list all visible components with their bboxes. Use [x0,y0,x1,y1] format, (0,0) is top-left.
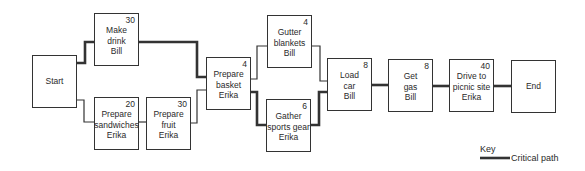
node-label-line: sports gear [261,122,316,133]
node-prepare-sandwiches: 20PreparesandwichesErika [94,97,139,150]
node-label: PreparesandwichesErika [89,109,144,141]
node-label-line: Erika [141,130,196,141]
node-label-line: Gutter [262,27,317,38]
node-label-line: Drive to [444,71,499,82]
node-label: Gathersports gearErika [261,111,316,143]
node-label-line: Prepare [89,109,144,120]
key-title: Key [480,144,496,154]
node-label-line: car [322,81,377,92]
node-label-line: Bill [262,48,317,59]
node-label-line: Erika [89,130,144,141]
node-duration: 30 [178,99,187,109]
node-label: PreparebasketErika [201,69,256,101]
node-gutter-blankets: 4GutterblanketsBill [267,15,312,68]
node-duration: 4 [242,59,247,69]
node-drive-to-picnic-site: 40Drive topicnic siteErika [449,59,494,112]
node-label-line: Bill [89,46,144,57]
node-label-line: End [506,81,561,92]
node-label-line: Prepare [201,69,256,80]
node-label-line: Erika [201,90,256,101]
key-critical-path-label: Critical path [511,153,559,163]
node-label: GetgasBill [383,71,438,103]
node-label-line: Erika [261,132,316,143]
node-label-line: picnic site [444,82,499,93]
node-label-line: Gather [261,111,316,122]
node-get-gas: 8GetgasBill [388,59,433,112]
node-load-car: 8LoadcarBill [327,58,372,111]
edge-makedrink-basket [138,42,206,77]
node-duration: 40 [481,61,490,71]
node-label: Start [27,76,82,87]
node-prepare-basket: 4PreparebasketErika [206,57,251,110]
node-label-line: Bill [322,91,377,102]
node-label-line: blankets [262,38,317,49]
node-label-line: Load [322,70,377,81]
node-gather-sports-gear: 6Gathersports gearErika [266,99,311,152]
node-label-line: Get [383,71,438,82]
node-label-line: sandwiches [89,120,144,131]
node-duration: 8 [424,61,429,71]
node-end: End [511,60,556,113]
node-label-line: Start [27,76,82,87]
node-label-line: Make [89,25,144,36]
node-duration: 4 [303,17,308,27]
node-label-line: drink [89,36,144,47]
node-prepare-fruit: 30PreparefruitErika [146,97,191,150]
node-label-line: Erika [444,92,499,103]
node-label: Drive topicnic siteErika [444,71,499,103]
node-label-line: gas [383,82,438,93]
node-label: PreparefruitErika [141,109,196,141]
node-duration: 6 [302,101,307,111]
node-duration: 30 [126,15,135,25]
node-label-line: Prepare [141,109,196,120]
node-start: Start [32,55,77,108]
node-make-drink: 30MakedrinkBill [94,13,139,66]
node-label: MakedrinkBill [89,25,144,57]
node-duration: 8 [363,60,368,70]
node-label: End [506,81,561,92]
node-duration: 20 [126,99,135,109]
node-label-line: basket [201,80,256,91]
node-label: LoadcarBill [322,70,377,102]
node-label: GutterblanketsBill [262,27,317,59]
node-label-line: fruit [141,120,196,131]
node-label-line: Bill [383,92,438,103]
